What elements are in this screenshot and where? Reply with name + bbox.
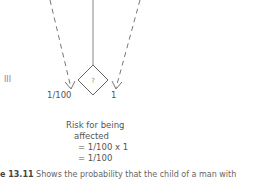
right-arrowhead-icon xyxy=(112,81,122,89)
right-probability: 1 xyxy=(111,90,116,100)
figure-caption: e 13.11 Shows the probability that the c… xyxy=(0,170,236,179)
risk-line-4: = 1/100 xyxy=(66,153,128,164)
risk-line-1: Risk for being xyxy=(66,120,128,131)
figure-label: e 13.11 xyxy=(0,170,34,179)
pedigree-diagram: ? xyxy=(0,0,262,179)
node-symbol: ? xyxy=(91,77,95,85)
risk-line-3: = 1/100 x 1 xyxy=(66,142,128,153)
left-dashed-arrow xyxy=(50,0,71,88)
risk-line-2: affected xyxy=(66,131,128,142)
risk-calculation: Risk for being affected = 1/100 x 1 = 1/… xyxy=(66,120,128,164)
right-dashed-arrow xyxy=(116,0,140,88)
generation-label: III xyxy=(4,75,11,84)
caption-text: Shows the probability that the child of … xyxy=(36,170,236,179)
left-probability: 1/100 xyxy=(47,90,72,100)
